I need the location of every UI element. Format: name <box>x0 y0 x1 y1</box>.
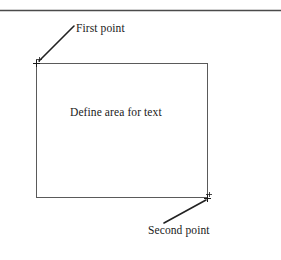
second-point-leader-line <box>164 200 206 223</box>
second-point-label: Second point <box>148 224 210 237</box>
text-area-rectangle <box>37 64 208 198</box>
figure-canvas: First point Define area for text Second … <box>0 0 281 260</box>
figure-drawing <box>0 0 281 260</box>
first-point-label: First point <box>76 22 125 35</box>
text-area-label: Define area for text <box>70 106 162 119</box>
first-point-leader-line <box>39 26 74 61</box>
